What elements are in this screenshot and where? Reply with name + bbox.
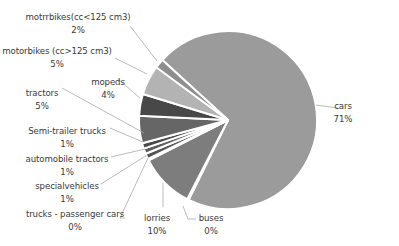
slice-percent: 1% [35,193,99,206]
slice-percent: 5% [26,100,59,113]
slice-label-mopeds: mopeds4% [91,76,125,102]
slice-label-tractors: tractors5% [26,87,59,113]
slice-percent: 1% [26,166,109,179]
leader-line-motorbikes-gt-125 [115,58,147,74]
slice-percent: 71% [334,113,353,126]
slice-label-semi-trailer-trucks: Semi-trailer trucks1% [28,125,106,151]
slice-percent: 1% [28,138,106,151]
leader-line-motorbikes-lt-125 [130,26,157,61]
slice-label-motorbikes-gt-125: motorbikes (cc>125 cm3)5% [2,45,112,71]
slice-name: trucks - passenger cars [26,208,124,221]
slice-name: motrrbikes(cc<125 cm3) [25,11,130,24]
slice-percent: 0% [199,225,224,238]
slice-percent: 4% [91,89,125,102]
slice-name: motorbikes (cc>125 cm3) [2,45,112,58]
slice-label-automobile-tractors: automobile tractors1% [26,153,109,179]
slice-label-buses: buses0% [199,212,224,238]
slice-label-special-vehicles: specialvehicles1% [35,180,99,206]
slice-name: specialvehicles [35,180,99,193]
leader-line-buses [183,206,196,219]
leader-line-trucks-passenger-cars [120,158,148,218]
pie-slices [139,31,317,209]
slice-percent: 0% [26,221,124,234]
slice-name: mopeds [91,76,125,89]
slice-percent: 2% [25,24,130,37]
slice-name: Semi-trailer trucks [28,125,106,138]
slice-name: automobile tractors [26,153,109,166]
slice-percent: 10% [144,225,170,238]
slice-label-cars: cars71% [334,100,353,126]
slice-label-motorbikes-lt-125: motrrbikes(cc<125 cm3)2% [25,11,130,37]
slice-label-lorries: lorries10% [144,212,170,238]
slice-name: buses [199,212,224,225]
slice-label-trucks-passenger-cars: trucks - passenger cars0% [26,208,124,234]
slice-percent: 5% [2,58,112,71]
slice-name: lorries [144,212,170,225]
slice-name: cars [334,100,353,113]
leader-line-automobile-tractors [111,149,145,157]
slice-name: tractors [26,87,59,100]
